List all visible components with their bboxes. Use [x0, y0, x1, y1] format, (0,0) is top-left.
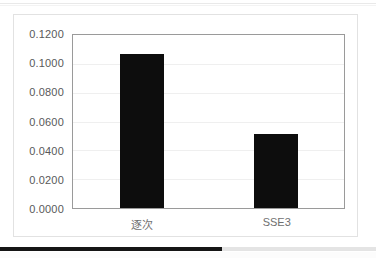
- bottom-edge-area: [0, 252, 376, 258]
- x-axis-labels: 逐次 SSE3: [72, 211, 345, 235]
- chart-card[interactable]: 0.1200 0.1000 0.0800 0.0600 0.0400 0.020…: [13, 14, 358, 237]
- bottom-progress-fill: [0, 247, 222, 251]
- y-axis-labels: 0.1200 0.1000 0.0800 0.0600 0.0400 0.020…: [14, 34, 68, 209]
- plot-area[interactable]: [72, 34, 345, 209]
- y-axis-tick-label: 0.0000: [29, 203, 64, 215]
- bar-series: [73, 35, 344, 208]
- y-axis-tick-label: 0.1200: [29, 28, 64, 40]
- bottom-progress-track[interactable]: [0, 247, 376, 251]
- x-axis-category-label: SSE3: [263, 216, 291, 228]
- y-axis-tick-label: 0.0600: [29, 116, 64, 128]
- y-axis-tick-label: 0.1000: [29, 57, 64, 69]
- y-axis-tick-label: 0.0800: [29, 86, 64, 98]
- top-divider-line: [0, 3, 376, 4]
- y-axis-tick-label: 0.0200: [29, 174, 64, 186]
- top-divider-line-secondary: [0, 5, 376, 6]
- y-axis-tick-label: 0.0400: [29, 145, 64, 157]
- bar-category-0[interactable]: [120, 54, 165, 208]
- bar-category-1[interactable]: [254, 134, 299, 208]
- x-axis-category-label: 逐次: [131, 216, 153, 232]
